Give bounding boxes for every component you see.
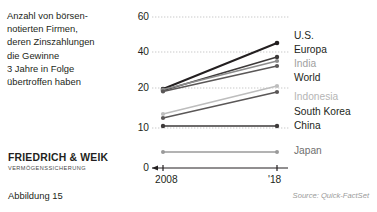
series-line-south-korea [161, 90, 279, 120]
series-label-india: India [294, 59, 316, 69]
x-axis-line [152, 165, 288, 171]
series-line-china [161, 124, 279, 128]
series-line-us [161, 41, 280, 92]
figure-container: Anzahl von börsen- notierten Firmen, der… [0, 0, 377, 212]
source-note: Source: Quick-FactSet [293, 191, 369, 200]
series-label-south-korea: South Korea [294, 107, 351, 117]
series-label-world: World [294, 73, 320, 83]
series-label-japan: Japan [294, 146, 322, 156]
series-line-europa [161, 55, 279, 93]
line-chart: 60 40 20 10 0 2008 '18 [0, 0, 377, 212]
series-label-europa: Europa [294, 45, 327, 55]
series-label-us: U.S. [294, 31, 314, 41]
series-label-indonesia: Indonesia [294, 92, 338, 102]
series-line-japan [161, 150, 279, 154]
series-label-china: China [294, 121, 321, 131]
